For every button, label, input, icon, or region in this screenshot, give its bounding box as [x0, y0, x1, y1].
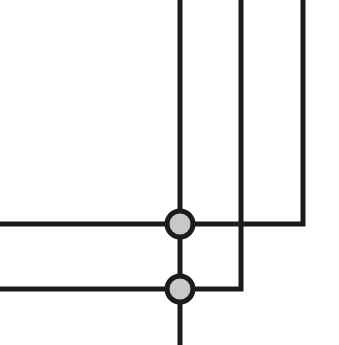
wire-upper	[0, 0, 303, 224]
wiring-diagram	[0, 0, 339, 345]
junction-lower-node	[167, 276, 193, 302]
wire-lower	[0, 0, 241, 289]
wires-group	[0, 0, 303, 345]
junction-upper-node	[167, 211, 193, 237]
